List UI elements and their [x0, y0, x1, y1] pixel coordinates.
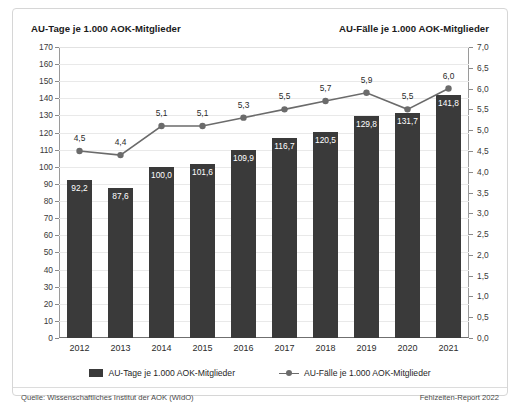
plot-area: 92,287,6100,0101,6109,9116,7120,5129,813…	[59, 47, 469, 338]
y-axis-right-tick	[469, 89, 473, 90]
y-axis-left-tick-label: 50	[25, 248, 53, 256]
y-axis-left-tick	[55, 304, 59, 305]
x-axis-tick-2014: 2014	[141, 343, 182, 353]
bar-swatch-icon	[89, 369, 103, 377]
y-axis-left-tick	[55, 150, 59, 151]
y-axis-left-tick-label: 30	[25, 283, 53, 291]
y-axis-left-tick	[55, 201, 59, 202]
chart-title-right: AU-Fälle je 1.000 AOK-Mitglieder	[339, 23, 489, 34]
line-value-label: 5,7	[306, 84, 346, 92]
line-value-label: 4,5	[60, 134, 100, 142]
line-value-label: 5,5	[265, 92, 305, 100]
bar-2021	[436, 95, 461, 338]
chart-legend: AU-Tage je 1.000 AOK-Mitglieder AU-Fälle…	[13, 368, 507, 378]
legend-label-bar: AU-Tage je 1.000 AOK-Mitglieder	[108, 368, 235, 378]
y-axis-right-tick-label: 4,5	[477, 147, 503, 155]
bar-2020	[395, 113, 420, 338]
line-value-label: 5,3	[224, 101, 264, 109]
y-axis-right-tick	[469, 255, 473, 256]
line-value-label: 6,0	[429, 72, 469, 80]
y-axis-right-tick	[469, 317, 473, 318]
line-marker-2017	[281, 106, 287, 112]
line-marker-2021	[445, 85, 451, 91]
line-value-label: 5,1	[142, 109, 182, 117]
y-axis-right-tick	[469, 68, 473, 69]
line-value-label: 4,4	[101, 138, 141, 146]
y-axis-left-tick-label: 10	[25, 317, 53, 325]
line-marker-2018	[322, 98, 328, 104]
legend-item-bar: AU-Tage je 1.000 AOK-Mitglieder	[89, 368, 235, 378]
bar-2012	[67, 180, 92, 338]
y-axis-right-tick-label: 6,0	[477, 85, 503, 93]
line-value-label: 5,9	[347, 76, 387, 84]
line-value-label: 5,1	[183, 109, 223, 117]
source-note: Quelle: Wissenschaftliches Institut der …	[21, 393, 194, 402]
x-axis-tick-2016: 2016	[223, 343, 264, 353]
y-axis-right-tick-label: 1,0	[477, 292, 503, 300]
y-axis-left-tick-label: 110	[25, 146, 53, 154]
line-marker-2020	[404, 106, 410, 112]
y-axis-left-tick-label: 90	[25, 180, 53, 188]
y-axis-left-tick	[55, 252, 59, 253]
y-axis-right-tick-label: 5,5	[477, 105, 503, 113]
y-axis-left-tick-label: 100	[25, 163, 53, 171]
y-axis-right-tick-label: 7,0	[477, 43, 503, 51]
y-axis-right-tick	[469, 151, 473, 152]
y-axis-left-tick	[55, 167, 59, 168]
y-axis-right-tick-label: 0,0	[477, 334, 503, 342]
y-axis-right-tick	[469, 234, 473, 235]
x-axis-tick-2015: 2015	[182, 343, 223, 353]
y-axis-left-tick	[55, 133, 59, 134]
report-note: Fehlzeiten-Report 2022	[420, 393, 499, 402]
y-axis-right-tick	[469, 47, 473, 48]
y-axis-right-tick	[469, 109, 473, 110]
x-axis-tick-2013: 2013	[100, 343, 141, 353]
line-marker-2016	[240, 114, 246, 120]
y-axis-right-tick-label: 5,0	[477, 126, 503, 134]
y-axis-right-tick	[469, 296, 473, 297]
chart-title-left: AU-Tage je 1.000 AOK-Mitglieder	[31, 23, 181, 34]
y-axis-left-tick	[55, 47, 59, 48]
y-axis-left-tick	[55, 338, 59, 339]
bar-2013	[108, 188, 133, 338]
y-axis-right-tick-label: 2,5	[477, 230, 503, 238]
y-axis-left-tick-label: 60	[25, 231, 53, 239]
y-axis-right-tick-label: 2,0	[477, 251, 503, 259]
y-axis-right-tick	[469, 276, 473, 277]
y-axis-left-tick-label: 160	[25, 60, 53, 68]
y-axis-right-tick-label: 1,5	[477, 272, 503, 280]
y-axis-left-tick	[55, 270, 59, 271]
x-axis-tick-2012: 2012	[59, 343, 100, 353]
y-axis-right-tick	[469, 213, 473, 214]
y-axis-left-tick	[55, 81, 59, 82]
y-axis-right-tick	[469, 130, 473, 131]
line-marker-2019	[363, 90, 369, 96]
footer-divider	[13, 387, 507, 388]
legend-item-line: AU-Fälle je 1.000 AOK-Mitglieder	[279, 368, 431, 378]
x-axis-tick-2018: 2018	[305, 343, 346, 353]
bar-value-label: 131,7	[395, 117, 420, 125]
y-axis-left-tick	[55, 64, 59, 65]
y-axis-right-tick	[469, 172, 473, 173]
y-axis-right-tick	[469, 338, 473, 339]
y-axis-left-tick-label: 170	[25, 43, 53, 51]
y-axis-left-tick	[55, 321, 59, 322]
y-axis-right-tick	[469, 193, 473, 194]
line-marker-2013	[117, 152, 123, 158]
chart-figure: AU-Tage je 1.000 AOK-Mitglieder AU-Fälle…	[12, 8, 508, 396]
y-axis-left-tick	[55, 218, 59, 219]
line-marker-2014	[158, 123, 164, 129]
line-marker-2012	[76, 148, 82, 154]
line-marker-2015	[199, 123, 205, 129]
y-axis-left-tick-label: 70	[25, 214, 53, 222]
y-axis-left-tick-label: 0	[25, 334, 53, 342]
legend-label-line: AU-Fälle je 1.000 AOK-Mitglieder	[304, 368, 431, 378]
y-axis-right-tick-label: 3,0	[477, 209, 503, 217]
bar-value-label: 141,8	[436, 99, 461, 107]
y-axis-left-tick	[55, 184, 59, 185]
y-axis-right-tick-label: 6,5	[477, 64, 503, 72]
y-axis-right-tick-label: 4,0	[477, 168, 503, 176]
y-axis-left-tick-label: 80	[25, 197, 53, 205]
y-axis-left-tick-label: 120	[25, 129, 53, 137]
y-axis-left-tick-label: 150	[25, 77, 53, 85]
